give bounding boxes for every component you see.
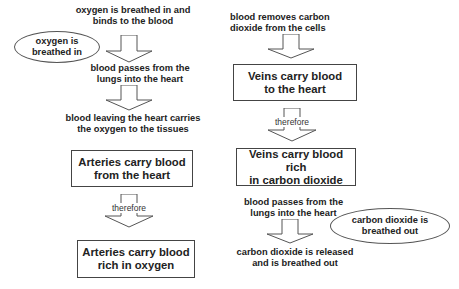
- ellipse-oxygen-breathed-in: oxygen is breathed in: [14, 31, 100, 63]
- text-line: blood removes carbon: [230, 12, 345, 23]
- right-step-remove-co2: blood removes carbon dioxide from the ce…: [230, 12, 345, 34]
- text-line: binds to the blood: [62, 16, 204, 27]
- text-line: dioxide from the cells: [230, 23, 345, 34]
- text-line: and is breathed out: [230, 258, 360, 269]
- therefore-label: therefore: [271, 117, 313, 127]
- text-line: carbon dioxide is: [352, 215, 428, 226]
- text-line: in carbon dioxide: [237, 174, 355, 187]
- text-line: to the heart: [248, 83, 342, 96]
- left-step-oxygen-breathed-in: oxygen is breathed in and binds to the b…: [62, 5, 204, 27]
- box-arteries-rich-oxygen: Arteries carry blood rich in oxygen: [77, 240, 195, 278]
- box-veins-rich-co2: Veins carry blood rich in carbon dioxide: [236, 148, 356, 186]
- text-line: breathed in: [32, 47, 82, 58]
- text-line: rich in oxygen: [82, 259, 189, 272]
- left-step-oxygen-to-tissues: blood leaving the heart carries the oxyg…: [52, 113, 214, 135]
- text-line: Veins carry blood: [248, 70, 342, 83]
- ellipse-co2-breathed-out: carbon dioxide is breathed out: [330, 208, 450, 244]
- text-line: Arteries carry blood: [82, 246, 189, 259]
- down-arrow-icon: [266, 219, 314, 244]
- text-line: the oxygen to the tissues: [52, 124, 214, 135]
- text-line: carbon dioxide is released: [230, 247, 360, 258]
- text-line: Arteries carry blood: [78, 156, 185, 169]
- box-veins-to-heart: Veins carry blood to the heart: [233, 64, 357, 101]
- therefore-label: therefore: [108, 203, 150, 213]
- left-step-blood-to-heart: blood passes from the lungs into the hea…: [75, 63, 205, 85]
- text-line: blood passes from the: [75, 63, 205, 74]
- text-line: lungs into the heart: [236, 208, 351, 219]
- down-arrow-icon: [267, 34, 315, 59]
- text-line: Veins carry blood rich: [237, 148, 355, 174]
- text-line: oxygen is breathed in and: [62, 5, 204, 16]
- text-line: from the heart: [78, 169, 185, 182]
- text-line: blood passes from the: [236, 197, 351, 208]
- text-line: oxygen is: [32, 36, 82, 47]
- right-step-blood-to-heart: blood passes from the lungs into the hea…: [236, 197, 351, 219]
- box-arteries-from-heart: Arteries carry blood from the heart: [71, 150, 193, 187]
- down-arrow-icon: [105, 85, 153, 111]
- right-step-co2-released: carbon dioxide is released and is breath…: [230, 247, 360, 269]
- text-line: lungs into the heart: [75, 74, 205, 85]
- text-line: blood leaving the heart carries: [52, 113, 214, 124]
- down-arrow-icon: [105, 35, 153, 63]
- text-line: breathed out: [352, 226, 428, 237]
